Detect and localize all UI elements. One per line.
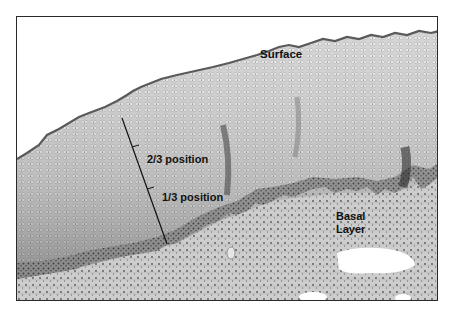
label-surface: Surface bbox=[260, 48, 302, 60]
rete-peg-streak bbox=[403, 147, 407, 187]
label-basal-layer: Basal Layer bbox=[336, 210, 365, 236]
micrograph-frame: Surface 2/3 position 1/3 position Basal … bbox=[16, 16, 438, 301]
tissue-section-image bbox=[17, 17, 438, 301]
label-basal-line2: Layer bbox=[336, 223, 365, 236]
label-basal-line1: Basal bbox=[336, 210, 365, 223]
vessel-lumen bbox=[227, 247, 235, 259]
label-one-third-position: 1/3 position bbox=[162, 191, 223, 203]
label-two-thirds-position: 2/3 position bbox=[147, 153, 208, 165]
